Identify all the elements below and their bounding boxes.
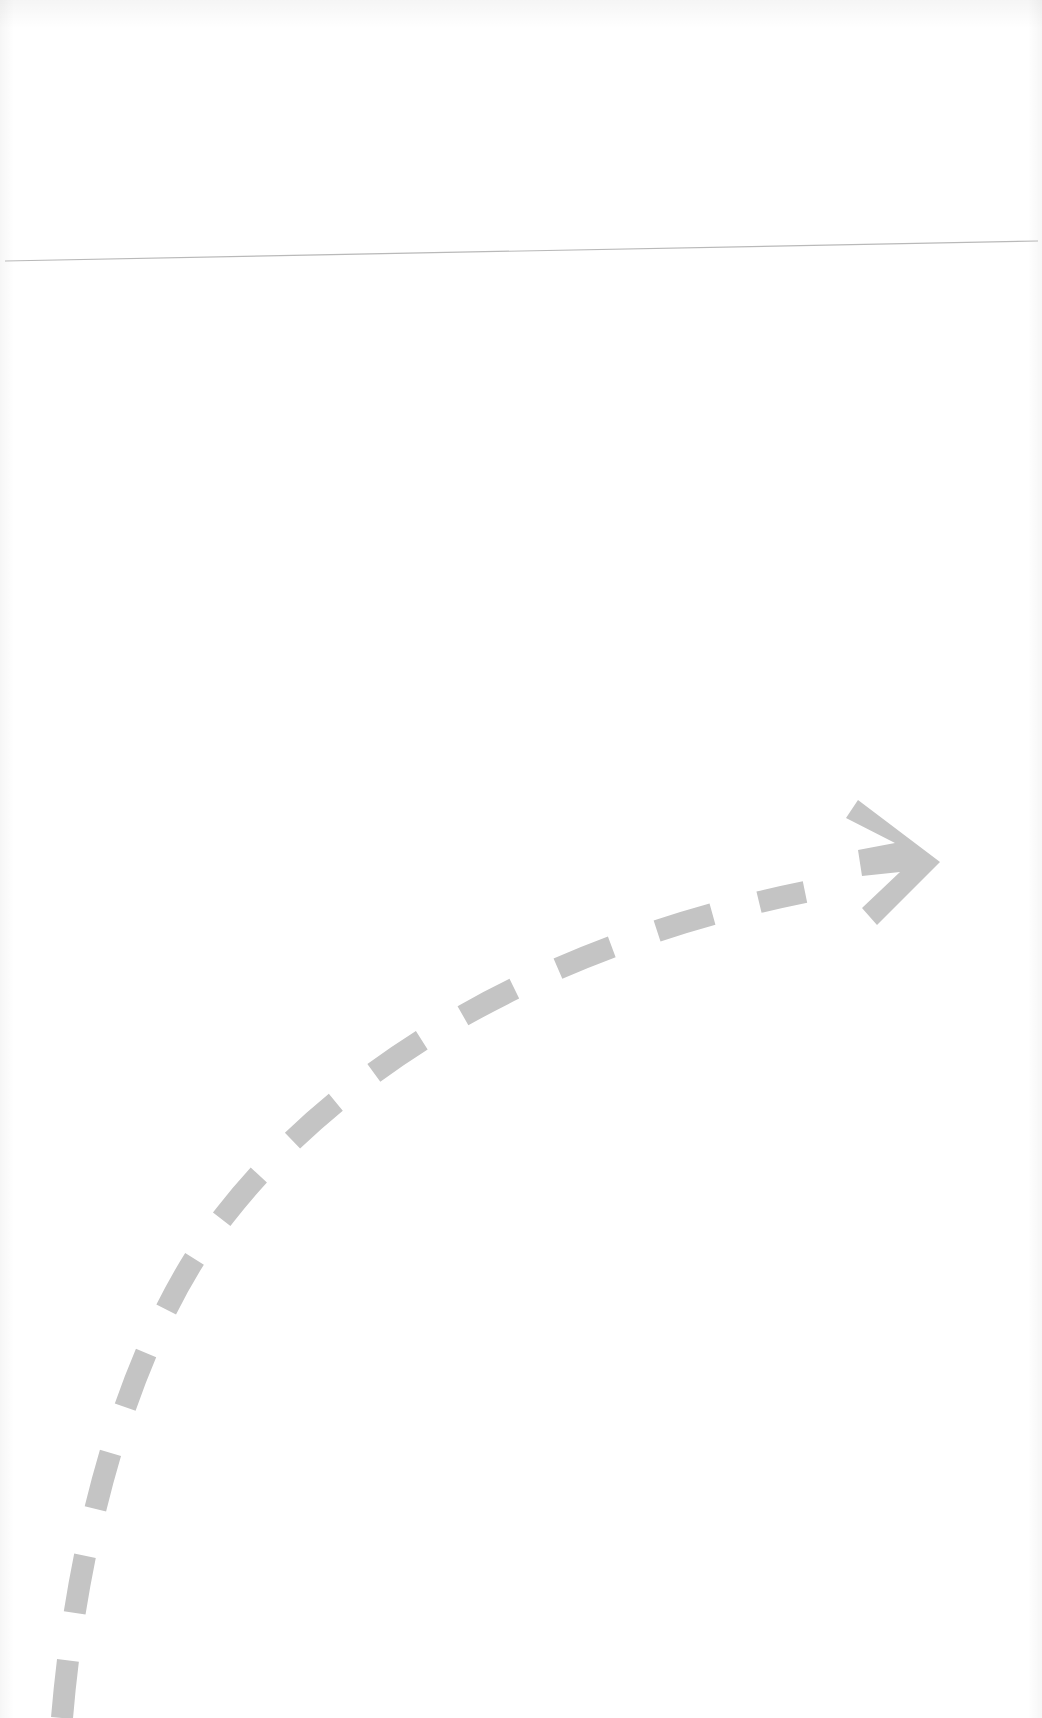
dashed-curved-arrow-icon	[0, 0, 1042, 1718]
arrow-dashed-stroke	[62, 892, 805, 1718]
arrow-head	[846, 800, 940, 925]
page	[0, 0, 1042, 1718]
